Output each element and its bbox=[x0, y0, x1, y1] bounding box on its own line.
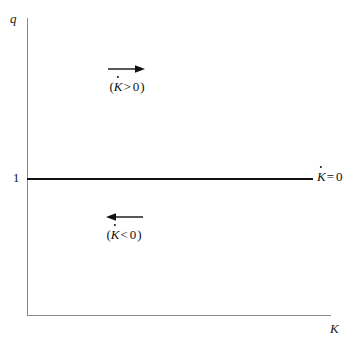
region-below-value: 0 bbox=[129, 227, 138, 242]
kdot-zero-locus-label: K=0 bbox=[317, 170, 344, 183]
region-above-locus-label: (K>0) bbox=[107, 80, 147, 94]
region-above-close-paren: ) bbox=[140, 79, 144, 94]
region-below-locus: (K<0) bbox=[104, 210, 144, 242]
phase-diagram-figure: q K 1 K=0 (K>0) (K<0) bbox=[0, 0, 362, 343]
region-below-variable: K bbox=[111, 228, 120, 242]
arrow-left-icon bbox=[104, 210, 144, 224]
region-above-operator: > bbox=[122, 79, 131, 94]
locus-variable: K bbox=[317, 170, 326, 183]
region-below-operator: < bbox=[119, 227, 128, 242]
region-below-locus-label: (K<0) bbox=[104, 228, 144, 242]
y-axis-tick-label-1: 1 bbox=[13, 172, 19, 185]
y-axis bbox=[27, 18, 28, 316]
region-above-variable: K bbox=[114, 80, 123, 94]
locus-operator: = bbox=[326, 169, 335, 184]
y-axis-label: q bbox=[10, 12, 17, 25]
region-below-close-paren: ) bbox=[137, 227, 141, 242]
x-axis-label: K bbox=[330, 322, 339, 335]
locus-value: 0 bbox=[335, 169, 344, 184]
x-axis bbox=[27, 315, 331, 316]
region-above-value: 0 bbox=[132, 79, 141, 94]
arrow-right-icon bbox=[107, 62, 147, 76]
kdot-zero-locus-line bbox=[27, 178, 313, 180]
region-above-locus: (K>0) bbox=[107, 62, 147, 94]
